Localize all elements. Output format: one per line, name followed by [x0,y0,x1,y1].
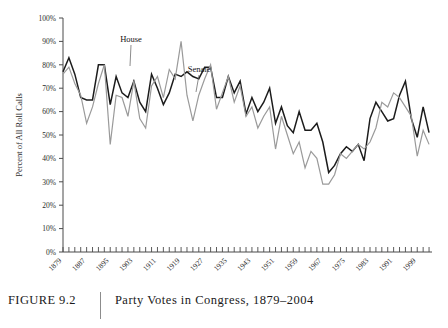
caption-divider [100,292,101,319]
house-label-leader [130,45,131,66]
x-tick-label: 1967 [306,256,323,273]
y-tick-label: 60% [42,107,56,116]
y-tick-label: 30% [42,178,56,187]
x-tick-label: 1999 [401,256,418,273]
x-tick-label: 1991 [377,256,394,273]
y-tick-label: 20% [42,201,56,210]
y-axis-title: Percent of All Roll Calls [14,93,24,177]
x-tick-label: 1959 [283,256,300,273]
senate-label: Senate [188,64,211,74]
y-tick-label: 40% [42,154,56,163]
y-tick-label: 80% [42,61,56,70]
series-group [63,41,429,184]
y-tick-label: 70% [42,84,56,93]
x-tick-label: 1975 [330,256,347,273]
x-tick-label: 1943 [235,256,252,273]
y-axis-title-group: Percent of All Roll Calls [14,93,24,177]
caption-title-text: Party Votes in Congress, 1879–2004 [115,292,314,308]
x-tick-group: 1879188718951903191119191927193519431951… [46,247,429,273]
party-votes-line-chart: 0%10%20%30%40%50%60%70%80%90%100% 187918… [0,0,448,292]
y-tick-label: 90% [42,37,56,46]
house-label: House [120,34,142,44]
y-tick-label: 10% [42,224,56,233]
y-tick-group: 0%10%20%30%40%50%60%70%80%90%100% [39,14,64,257]
y-tick-label: 0% [46,248,56,257]
figure-caption: FIGURE 9.2 Party Votes in Congress, 1879… [0,292,448,328]
axis-lines [63,18,432,252]
x-tick-label: 1887 [70,256,87,273]
x-tick-label: 1935 [212,256,229,273]
y-tick-label: 100% [39,14,57,23]
x-tick-label: 1983 [353,256,370,273]
y-tick-label: 50% [42,131,56,140]
axis-group [63,18,432,252]
figure-root: 0%10%20%30%40%50%60%70%80%90%100% 187918… [0,0,448,328]
x-tick-label: 1903 [117,256,134,273]
x-tick-label: 1927 [188,256,205,273]
x-tick-label: 1919 [165,256,182,273]
x-tick-label: 1895 [94,256,111,273]
x-tick-label: 1879 [46,256,63,273]
caption-figure-number: FIGURE 9.2 [8,292,76,308]
x-tick-label: 1911 [141,256,158,273]
x-tick-label: 1951 [259,256,276,273]
